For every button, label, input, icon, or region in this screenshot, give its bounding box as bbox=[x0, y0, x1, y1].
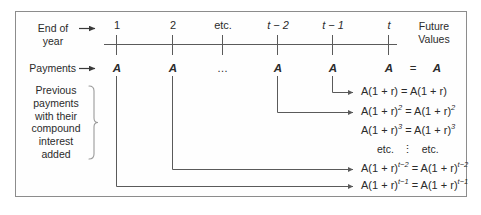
formula-tm1-right: A(1 + r)t−1 bbox=[421, 179, 469, 191]
formula-2-equals: = bbox=[405, 105, 411, 117]
tick-label-t-minus-2: t − 2 bbox=[267, 20, 289, 32]
formula-2-left: A(1 + r)2 bbox=[361, 105, 402, 117]
tick-label-2: 2 bbox=[170, 20, 176, 32]
formula-row-1: A(1 + r) = A(1 + r) bbox=[361, 86, 447, 98]
formula-row-3: A(1 + r)3 = A(1 + r)3 bbox=[361, 125, 455, 137]
caption-line-4: compound bbox=[24, 122, 88, 135]
formula-tm2-left: A(1 + r)t−2 bbox=[361, 162, 409, 174]
formula-3-equals: = bbox=[405, 124, 411, 136]
payment-1: A bbox=[113, 62, 121, 74]
caption-line-3: with their bbox=[24, 110, 88, 123]
payment-2: A bbox=[169, 62, 177, 74]
formula-1-equals: = bbox=[401, 85, 407, 97]
end-of-year-line-2: year bbox=[18, 35, 88, 48]
payment-ellipsis: … bbox=[217, 63, 229, 75]
formula-2-right: A(1 + r)2 bbox=[414, 105, 455, 117]
payment-equals-sign: = bbox=[410, 62, 417, 74]
tick-label-etc: etc. bbox=[214, 20, 232, 32]
row-label-end-of-year: End of year bbox=[18, 22, 88, 48]
caption-line-1: Previous bbox=[24, 84, 88, 97]
end-of-year-line-1: End of bbox=[18, 22, 88, 35]
formula-1-left: A(1 + r) bbox=[361, 85, 398, 97]
formula-tm1-equals: = bbox=[412, 179, 418, 191]
caption-line-5: interest bbox=[24, 135, 88, 148]
formula-1-right: A(1 + r) bbox=[410, 85, 447, 97]
formula-row-t-minus-1: A(1 + r)t−1 = A(1 + r)t−1 bbox=[361, 180, 468, 192]
formula-row-t-minus-2: A(1 + r)t−2 = A(1 + r)t−2 bbox=[361, 163, 468, 175]
formula-row-etc: etc. ⋮ etc. bbox=[377, 144, 439, 155]
payment-future-value: A bbox=[433, 62, 441, 74]
diagram-canvas: End of year Payments Previous payments w… bbox=[0, 0, 481, 215]
previous-payments-caption: Previous payments with their compound in… bbox=[24, 84, 88, 161]
row-label-payments: Payments bbox=[18, 63, 76, 74]
tick-label-t: t bbox=[387, 20, 390, 32]
formula-3-right: A(1 + r)3 bbox=[414, 124, 455, 136]
vertical-ellipsis-icon: ⋮ bbox=[397, 144, 419, 155]
formula-row-2: A(1 + r)2 = A(1 + r)2 bbox=[361, 106, 455, 118]
etc-left: etc. bbox=[377, 143, 394, 155]
payment-t: A bbox=[385, 62, 393, 74]
caption-line-2: payments bbox=[24, 97, 88, 110]
payment-t-minus-2: A bbox=[274, 62, 282, 74]
future-values-line-2: Values bbox=[404, 33, 464, 46]
future-values-line-1: Future bbox=[404, 20, 464, 33]
tick-label-1: 1 bbox=[114, 20, 120, 32]
formula-tm2-equals: = bbox=[412, 162, 418, 174]
caption-line-6: added bbox=[24, 148, 88, 161]
formula-3-left: A(1 + r)3 bbox=[361, 124, 402, 136]
future-values-header: Future Values bbox=[404, 20, 464, 46]
formula-tm1-left: A(1 + r)t−1 bbox=[361, 179, 409, 191]
formula-tm2-right: A(1 + r)t−2 bbox=[421, 162, 469, 174]
payment-t-minus-1: A bbox=[329, 62, 337, 74]
tick-label-t-minus-1: t − 1 bbox=[322, 20, 344, 32]
etc-right: etc. bbox=[422, 143, 439, 155]
